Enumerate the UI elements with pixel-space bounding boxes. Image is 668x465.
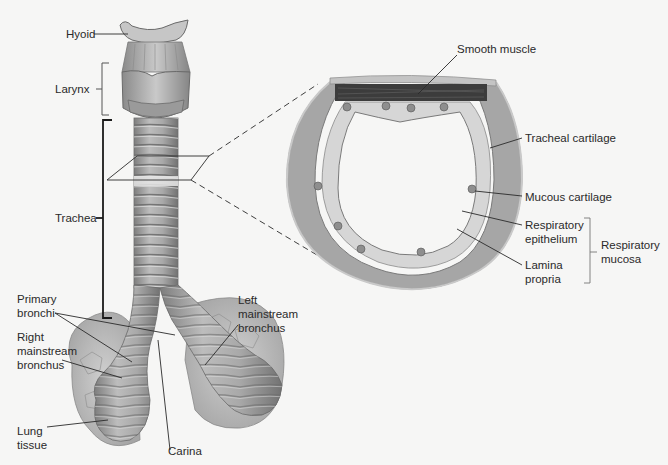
- hyoid-bone: [120, 20, 188, 43]
- thyrohyoid-membrane: [122, 42, 190, 72]
- mucosa-bracket: [584, 218, 597, 283]
- smooth-muscle-band: [335, 84, 487, 101]
- larynx-bracket: [96, 63, 109, 115]
- label-lamina-propria: Lamina propria: [525, 258, 563, 286]
- airway-lumen: [338, 112, 476, 255]
- label-tracheal-cartilage: Tracheal cartilage: [525, 131, 616, 145]
- label-respiratory-mucosa: Respiratory mucosa: [601, 238, 660, 266]
- label-lung-tissue: Lung tissue: [17, 424, 47, 452]
- tracheal-cross-section: [287, 75, 522, 289]
- label-smooth-muscle: Smooth muscle: [457, 42, 536, 56]
- trachea-bracket: [96, 120, 112, 318]
- label-left-mainstream-bronchus: Left mainstream bronchus: [238, 293, 298, 335]
- label-larynx: Larynx: [55, 82, 90, 96]
- label-carina: Carina: [168, 444, 202, 458]
- label-respiratory-epithelium: Respiratory epithelium: [525, 218, 584, 246]
- label-mucous-cartilage: Mucous cartilage: [525, 190, 612, 204]
- label-right-mainstream-bronchus: Right mainstream bronchus: [17, 330, 77, 372]
- label-hyoid: Hyoid: [66, 27, 95, 41]
- label-primary-bronchi: Primary bronchi: [17, 292, 57, 320]
- label-trachea: Trachea: [55, 211, 97, 225]
